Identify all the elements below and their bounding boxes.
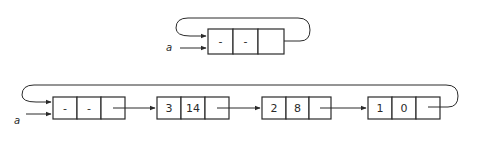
node-field-text: 8 — [294, 102, 301, 115]
top-header-node: - - — [208, 29, 284, 54]
node-field-text: 3 — [166, 102, 173, 115]
node-field-text: - — [87, 102, 91, 115]
node-field-text: 0 — [401, 102, 408, 115]
node-link-cell — [258, 29, 284, 54]
bottom-list: a - - 3 14 2 8 1 — [14, 85, 458, 126]
node-field-text: - — [219, 35, 223, 48]
bottom-node-4: 1 0 — [368, 97, 440, 119]
node-link-cell — [416, 97, 440, 119]
top-pointer-label: a — [166, 42, 172, 53]
circular-linked-list-diagram: a - - a - - 3 14 — [0, 0, 479, 141]
top-list: a - - — [166, 18, 310, 54]
node-field-text: - — [244, 35, 248, 48]
node-field-text: 14 — [186, 102, 200, 115]
node-field-text: 2 — [271, 102, 278, 115]
node-field-text: - — [63, 102, 67, 115]
bottom-pointer-label: a — [14, 115, 20, 126]
node-field-text: 1 — [377, 102, 384, 115]
